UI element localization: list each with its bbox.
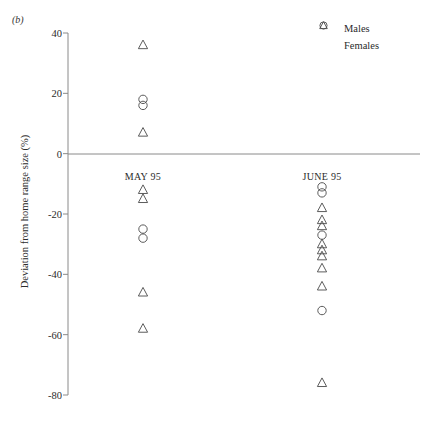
data-point-triangle	[317, 251, 326, 260]
scatter-plot-figure: (b) Deviation from home range size (%) 4…	[0, 0, 433, 425]
data-point-triangle	[138, 128, 147, 137]
data-point-circle	[139, 234, 147, 242]
axis-lines	[68, 33, 420, 395]
data-point-triangle	[317, 203, 326, 212]
data-point-triangle	[317, 281, 326, 290]
data-point-triangle	[317, 245, 326, 254]
data-point-triangle	[317, 378, 326, 387]
legend-item-females: Females	[318, 37, 379, 54]
data-point-triangle	[138, 194, 147, 203]
group-label: MAY 95	[125, 171, 161, 182]
data-point-triangle	[317, 221, 326, 230]
data-point-circle	[318, 231, 326, 239]
data-point-triangle	[138, 287, 147, 296]
data-markers	[138, 40, 326, 386]
data-point-triangle	[317, 239, 326, 248]
legend-label-females: Females	[344, 40, 379, 51]
y-axis-ticks	[63, 33, 68, 395]
legend: Males Females	[318, 20, 379, 54]
data-point-triangle	[138, 324, 147, 333]
data-point-circle	[318, 306, 326, 314]
plot-canvas	[0, 0, 433, 425]
data-point-triangle	[317, 215, 326, 224]
data-point-triangle	[138, 40, 147, 49]
legend-label-males: Males	[344, 23, 370, 34]
data-point-triangle	[317, 263, 326, 272]
data-point-circle	[139, 225, 147, 233]
data-point-triangle	[138, 185, 147, 194]
data-point-circle	[139, 101, 147, 109]
data-point-circle	[318, 189, 326, 197]
group-label: JUNE 95	[302, 171, 341, 182]
